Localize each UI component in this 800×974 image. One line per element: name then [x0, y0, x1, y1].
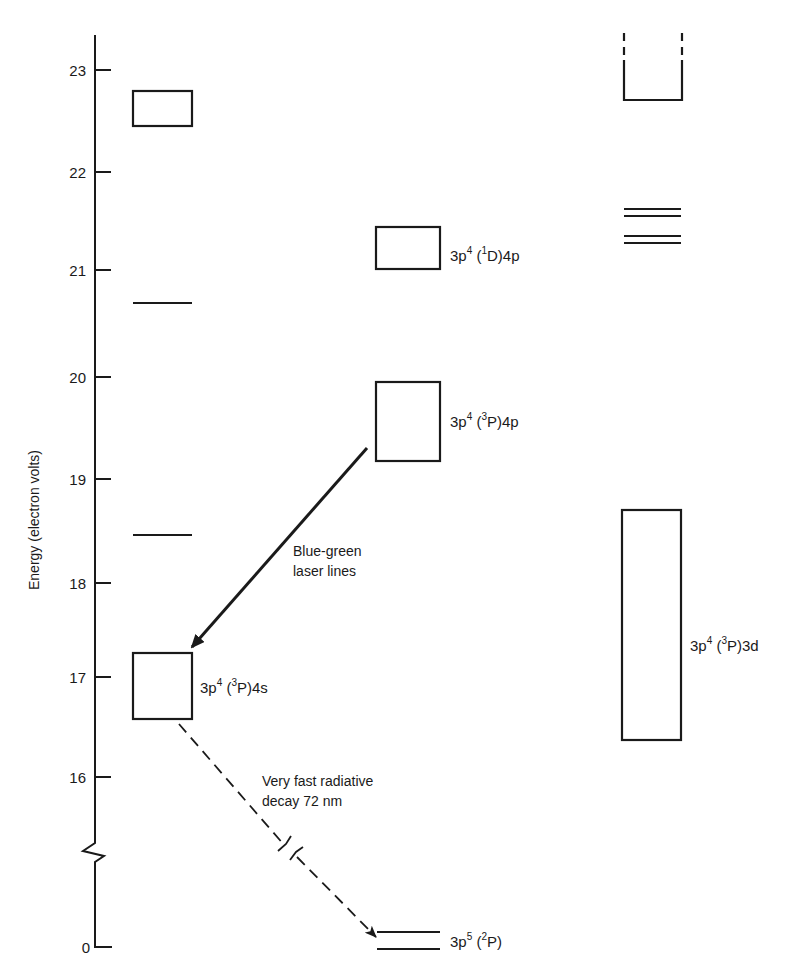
label-1D-4p: 3p4 (1D)4p — [450, 245, 520, 264]
tick-18: 18 — [69, 575, 86, 592]
level-box-4s — [133, 653, 192, 719]
laser-label-line1: Blue-green — [293, 543, 362, 559]
tick-22: 22 — [69, 164, 86, 181]
decay-transition-arrow — [179, 724, 376, 937]
energy-level-diagram: 23 22 21 20 19 18 17 16 0 Energy (electr… — [0, 0, 800, 974]
tick-20: 20 — [69, 369, 86, 386]
tick-23: 23 — [69, 62, 86, 79]
axis-tick-labels: 23 22 21 20 19 18 17 16 0 — [69, 62, 90, 956]
label-3d: 3p4 (3P)3d — [690, 635, 759, 654]
label-ground: 3p5 (2P) — [450, 931, 502, 950]
column-1-levels — [133, 91, 192, 719]
level-open-top-continuum — [624, 33, 682, 100]
axis-title: Energy (electron volts) — [26, 450, 42, 590]
tick-0: 0 — [82, 939, 90, 956]
column-3-levels — [622, 33, 682, 740]
column-2-levels — [376, 227, 440, 949]
tick-21: 21 — [69, 262, 86, 279]
tick-19: 19 — [69, 471, 86, 488]
label-4s: 3p4 (3P)4s — [200, 677, 268, 696]
decay-label-line2: decay 72 nm — [262, 793, 342, 809]
level-box-3P-4p — [376, 382, 440, 461]
decay-label-line1: Very fast radiative — [262, 773, 373, 789]
label-3P-4p: 3p4 (3P)4p — [450, 411, 519, 430]
tick-17: 17 — [69, 669, 86, 686]
tick-16: 16 — [69, 769, 86, 786]
level-box-3d — [622, 510, 681, 740]
laser-label-line2: laser lines — [293, 563, 356, 579]
energy-axis — [83, 35, 112, 947]
level-box-1D-4p — [376, 227, 440, 269]
level-box-22-6eV — [133, 91, 192, 126]
